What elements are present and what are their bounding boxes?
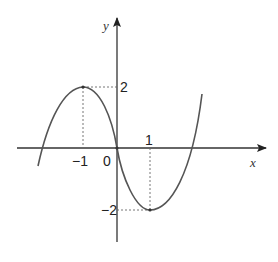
min-point [148, 208, 151, 211]
tick-x-pos1: 1 [145, 132, 153, 148]
max-point [81, 85, 84, 88]
cubic-function-graph: y x −1 0 1 2 −2 [0, 0, 278, 262]
tick-y-pos2: 2 [120, 79, 128, 95]
tick-origin: 0 [103, 153, 111, 169]
origin-point [115, 146, 118, 149]
tick-y-neg2: −2 [101, 202, 117, 218]
y-axis-label: y [101, 18, 109, 33]
tick-x-neg1: −1 [72, 153, 88, 169]
x-axis-label: x [249, 155, 256, 170]
